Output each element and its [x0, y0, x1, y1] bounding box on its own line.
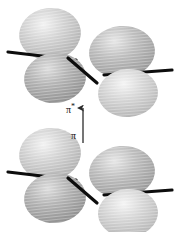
orbital-diagram-canvas — [0, 0, 176, 232]
pi-star-label: π* — [66, 103, 75, 115]
pi-star-superscript: * — [71, 102, 75, 111]
orbital-diagram-figure: π* π — [0, 0, 176, 232]
lower-left-bottom-lobe — [22, 170, 89, 226]
pi-label: π — [71, 131, 76, 141]
lower-orbital-unit — [8, 124, 172, 232]
upper-orbital-unit — [8, 4, 172, 119]
upper-left-bottom-lobe — [22, 50, 89, 106]
pi-glyph: π — [71, 130, 76, 141]
